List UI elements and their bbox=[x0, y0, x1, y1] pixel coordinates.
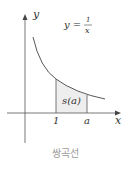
x-axis-label: x bbox=[115, 114, 122, 127]
equation-lhs: y = bbox=[63, 19, 81, 30]
figure-caption: 쌍곡선 bbox=[0, 145, 131, 160]
tick-label-a: a bbox=[84, 115, 90, 126]
equation-denominator: x bbox=[85, 26, 90, 35]
y-axis-arrow-icon bbox=[23, 14, 28, 20]
tick-label-1: 1 bbox=[53, 115, 59, 126]
y-axis-label: y bbox=[32, 8, 40, 21]
equation-numerator: 1 bbox=[86, 16, 90, 24]
area-label: s(a) bbox=[62, 95, 81, 106]
